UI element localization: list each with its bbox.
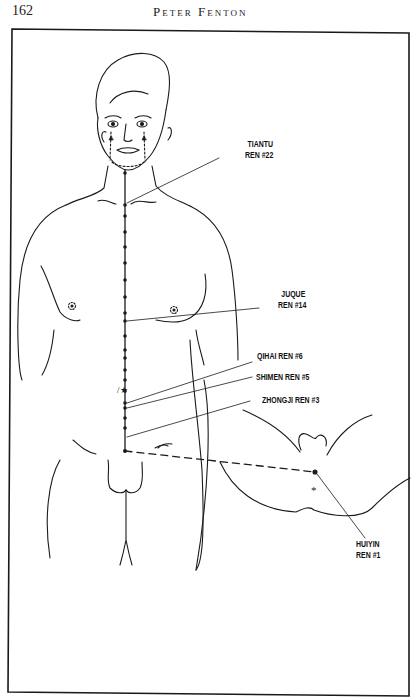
figure-frame bbox=[8, 29, 409, 696]
label-juque: JUQUE REN #14 bbox=[278, 289, 306, 311]
meridian-diagram: /★ * bbox=[0, 0, 415, 699]
svg-text:/★: /★ bbox=[117, 385, 128, 395]
label-shimen: SHIMEN REN #5 bbox=[256, 372, 309, 383]
label-tiantu: TIANTU REN #22 bbox=[245, 139, 273, 161]
head-outline bbox=[66, 53, 190, 206]
torso-outline bbox=[18, 205, 238, 570]
label-huiyin: HUIYIN REN #1 bbox=[356, 539, 380, 561]
perineum-inset: * bbox=[220, 410, 410, 516]
svg-text:*: * bbox=[311, 484, 317, 496]
label-qihai: QIHAI REN #6 bbox=[257, 351, 303, 362]
leader-lines bbox=[127, 158, 365, 538]
label-zhongji: ZHONGJI REN #3 bbox=[262, 395, 319, 406]
